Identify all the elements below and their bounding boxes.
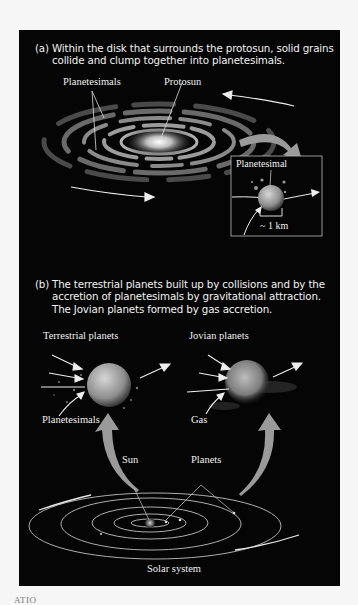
caption-b-label: (b) (35, 278, 49, 290)
caption-a: (a) Within the disk that surrounds the p… (35, 42, 337, 67)
label-planetesimals-a: Planetesimals (63, 76, 121, 87)
label-scale: ~ 1 km (260, 220, 288, 231)
caption-b: (b) The terrestrial planets built up by … (35, 278, 340, 315)
orbit-arrow-bottom (71, 187, 154, 201)
label-solar-system: Solar system (147, 563, 201, 574)
orbit-arrow-top (223, 91, 294, 106)
label-inset-planetesimal: Planetesimal (236, 158, 287, 169)
arrow-to-jovian (239, 413, 281, 496)
label-protosun: Protosun (164, 76, 201, 87)
label-sun: Sun (122, 454, 138, 465)
terrestrial-planet (87, 363, 131, 407)
sun (145, 518, 155, 528)
terrestrial-planet-illustration (41, 355, 170, 416)
caption-a-label: (a) (35, 42, 49, 54)
protosun (123, 126, 195, 158)
jovian-planet-illustration (187, 355, 302, 414)
figure-panel: (a) Within the disk that surrounds the p… (19, 30, 340, 586)
arrow-to-terrestrial (95, 413, 139, 492)
label-planetesimals-b: Planetesimals (42, 414, 100, 425)
label-terrestrial-planets: Terrestrial planets (43, 330, 118, 341)
caption-b-text: The terrestrial planets built up by coll… (52, 278, 340, 315)
jovian-planet (225, 360, 269, 404)
label-jovian-planets: Jovian planets (189, 330, 249, 341)
planetesimal-body (258, 185, 284, 211)
leader-lines-b (134, 485, 233, 520)
cut-off-text-fragment: ATIO (14, 595, 37, 605)
caption-a-text: Within the disk that surrounds the proto… (52, 42, 337, 67)
label-gas: Gas (191, 414, 207, 425)
label-planets: Planets (191, 454, 221, 465)
